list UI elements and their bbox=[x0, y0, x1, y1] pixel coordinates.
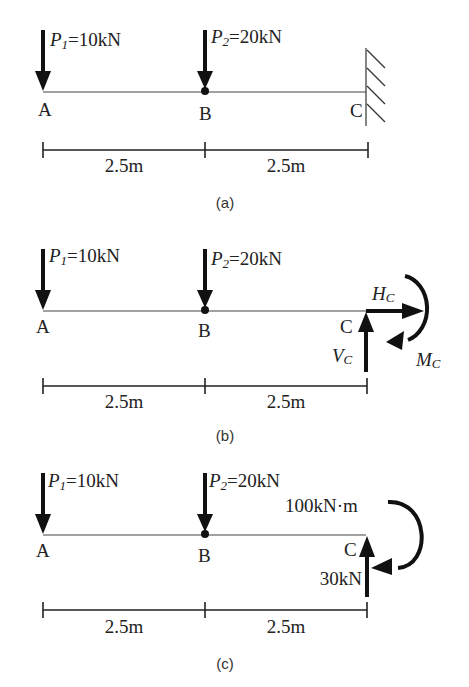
load-arrow-p1 bbox=[35, 30, 51, 91]
point-c-label: C bbox=[350, 100, 363, 121]
point-a-label: A bbox=[36, 540, 50, 561]
dimension-line bbox=[43, 602, 367, 618]
hinge-b bbox=[201, 530, 209, 538]
fixed-support-icon bbox=[366, 48, 385, 126]
reaction-label-vertical: 30kN bbox=[320, 568, 363, 589]
caption-b: (b) bbox=[216, 427, 234, 444]
dimension-label-ab: 2.5m bbox=[105, 155, 144, 176]
hinge-b bbox=[201, 306, 209, 314]
panel-a: P1=10kN P2=20kN A B C 2.5m 2.5m (a) bbox=[35, 26, 385, 211]
load-label-p1: P1=10kN bbox=[49, 29, 121, 52]
point-b-label: B bbox=[198, 320, 211, 341]
dimension-label-bc: 2.5m bbox=[267, 616, 306, 637]
dimension-label-ab: 2.5m bbox=[105, 616, 144, 637]
dimension-label-bc: 2.5m bbox=[267, 155, 306, 176]
reaction-label-vc: VC bbox=[332, 345, 353, 367]
point-b-label: B bbox=[199, 103, 212, 124]
caption-a: (a) bbox=[216, 194, 234, 211]
load-label-p1: P1=10kN bbox=[48, 245, 120, 268]
load-label-p2: P2=20kN bbox=[208, 470, 280, 493]
point-c-label: C bbox=[340, 316, 353, 337]
load-label-p1: P1=10kN bbox=[47, 470, 119, 493]
dimension-line bbox=[43, 142, 368, 158]
reaction-arrow-vc bbox=[358, 312, 374, 372]
point-a-label: A bbox=[38, 99, 52, 120]
panel-c: P1=10kN P2=20kN A B C 30kN 100kN·m 2.5m … bbox=[35, 470, 422, 672]
point-a-label: A bbox=[36, 316, 50, 337]
load-label-p2: P2=20kN bbox=[210, 26, 282, 49]
reaction-moment-arrow bbox=[371, 502, 422, 575]
caption-c: (c) bbox=[216, 655, 234, 672]
point-b-label: B bbox=[198, 545, 211, 566]
panel-b: P1=10kN P2=20kN A B C HC VC MC bbox=[35, 245, 441, 444]
load-label-p2: P2=20kN bbox=[210, 248, 282, 271]
reaction-label-hc: HC bbox=[371, 283, 395, 305]
reaction-label-mc: MC bbox=[415, 349, 441, 371]
dimension-label-bc: 2.5m bbox=[267, 391, 306, 412]
point-c-label: C bbox=[344, 539, 357, 560]
reaction-label-moment: 100kN·m bbox=[285, 495, 358, 516]
reaction-arrow-hc bbox=[366, 303, 424, 319]
dimension-label-ab: 2.5m bbox=[105, 391, 144, 412]
beam-diagram: P1=10kN P2=20kN A B C 2.5m 2.5m (a) bbox=[0, 0, 469, 687]
dimension-line bbox=[43, 378, 367, 394]
hinge-b bbox=[201, 87, 209, 95]
